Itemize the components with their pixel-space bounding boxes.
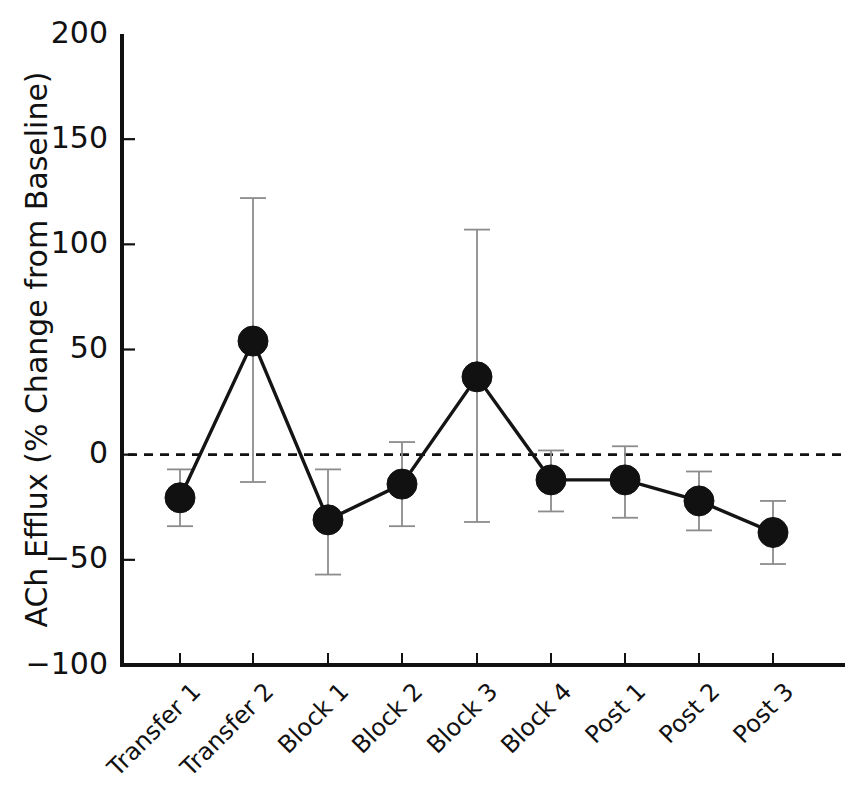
- data-point-marker: [758, 517, 788, 547]
- y-tick-label: 200: [51, 15, 108, 50]
- y-axis-label: ACh Efflux (% Change from Baseline): [19, 71, 54, 627]
- x-tick-label: Block 4: [495, 677, 577, 759]
- y-tick-label: −100: [26, 646, 108, 681]
- x-tick-label: Block 1: [272, 677, 354, 759]
- data-point-marker: [238, 326, 268, 356]
- x-axis-group: Transfer 1Transfer 2Block 1Block 2Block …: [101, 653, 799, 782]
- y-tick-label: 100: [51, 225, 108, 260]
- axis-spine: [122, 34, 845, 665]
- x-tick-label: Post 1: [580, 677, 652, 749]
- x-tick-label: Post 2: [654, 677, 726, 749]
- y-tick-label: 50: [70, 330, 108, 365]
- x-tick-labels: Transfer 1Transfer 2Block 1Block 2Block …: [101, 677, 799, 782]
- caption-fragment: [0, 768, 860, 786]
- line-chart-plot: 200150100500−50−100 ACh Efflux (% Change…: [0, 0, 860, 786]
- data-point-marker: [313, 505, 343, 535]
- data-point-marker: [610, 465, 640, 495]
- data-point-marker: [165, 483, 195, 513]
- x-tick-label: Block 3: [421, 677, 503, 759]
- x-tick-label: Block 2: [346, 677, 428, 759]
- y-axis-group: 200150100500−50−100 ACh Efflux (% Change…: [19, 15, 845, 681]
- chart-figure: 200150100500−50−100 ACh Efflux (% Change…: [0, 0, 860, 786]
- data-point-marker: [387, 469, 417, 499]
- data-point-marker: [684, 486, 714, 516]
- y-tick-label: −50: [45, 540, 108, 575]
- data-point-marker: [536, 465, 566, 495]
- y-tick-label: 0: [89, 435, 108, 470]
- data-point-marker: [462, 362, 492, 392]
- x-tick-label: Post 3: [728, 677, 800, 749]
- y-tick-label: 150: [51, 120, 108, 155]
